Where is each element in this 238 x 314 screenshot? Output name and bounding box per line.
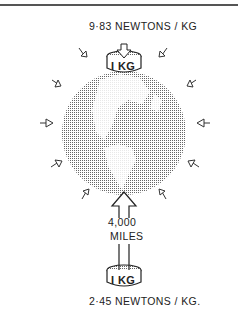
- distance-unit: MILES: [110, 230, 144, 242]
- arrow-icon: [40, 119, 53, 127]
- arrow-icon: [51, 160, 62, 167]
- bottom-weight-label: I KG: [111, 274, 135, 286]
- arrow-icon: [82, 189, 89, 199]
- arrow-icon: [159, 189, 166, 199]
- distance-value: 4,000: [108, 216, 136, 228]
- earth-globe: [62, 71, 186, 195]
- arrow-icon: [188, 160, 199, 167]
- arrow-icon: [52, 80, 61, 87]
- arrow-icon: [197, 119, 210, 127]
- arrow-icon: [79, 48, 87, 57]
- surface-gravity-label: 9·83 NEWTONS / KG: [89, 20, 197, 32]
- distant-gravity-label: 2·45 NEWTONS / KG.: [89, 295, 200, 307]
- arrow-icon: [159, 48, 167, 57]
- top-weight-label: I KG: [111, 60, 135, 72]
- arrow-icon: [187, 80, 196, 87]
- gravity-diagram: [0, 0, 238, 314]
